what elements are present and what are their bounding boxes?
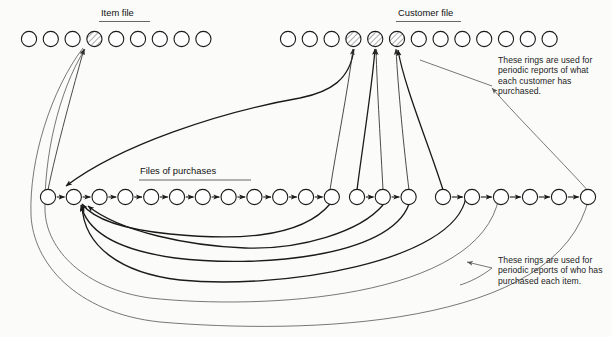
label-files-of-purchases: Files of purchases [140,165,216,176]
connector-c5 [398,50,443,190]
leader-item-note [460,268,492,285]
ring [196,31,211,46]
connector-c2 [357,49,375,190]
ring [65,31,80,46]
ring [498,31,513,46]
arc-purchase-return-1 [82,197,466,282]
annotation-customer-rings: These rings are used for periodic report… [498,55,606,97]
ring [477,31,492,46]
ring [324,31,339,46]
ring [195,189,210,204]
label-item-file: Item file [101,7,134,18]
ring-row-files-of-purchases-group-1 [40,189,339,204]
ring [40,189,55,204]
ring [152,31,167,46]
connectors-chain-to-item-file [48,49,84,190]
label-customer-file: Customer file [398,7,453,18]
arc-purchase-return-2 [81,204,409,261]
leader-customer-note-tail [420,60,492,86]
ring-hatched [87,31,102,46]
leader-item-note-arrow [467,262,492,268]
ring [433,31,448,46]
ring [349,189,364,204]
ring [273,189,288,204]
ring [493,189,508,204]
arc-purchase-return-3 [82,204,330,237]
leader-customer-note [492,88,589,192]
ring [324,189,339,204]
ring-hatched [389,31,404,46]
arc-item-return-mid [45,49,499,302]
ring [247,189,262,204]
ring [435,189,450,204]
ring [522,189,537,204]
ring [221,189,236,204]
ring [302,31,317,46]
ring-row-item-file [21,31,211,46]
ring [375,189,390,204]
ring-row-customer-file [280,31,557,46]
diagram-canvas: Item file Customer file Files of purchas… [0,0,611,337]
ring [298,189,313,204]
ring-row-files-of-purchases-group-3 [435,189,595,204]
ring [66,189,81,204]
ring-row-files-of-purchases-group-2 [349,189,416,204]
arc-purchase-return-4 [88,205,383,248]
ring [144,189,159,204]
connector-c1 [330,49,353,190]
connector-i1 [48,49,84,190]
ring [401,189,416,204]
ring [169,189,184,204]
ring-structure-diagram [0,0,611,337]
return-arcs-to-purchase-chain [81,197,466,282]
ring [464,189,479,204]
ring [21,31,36,46]
ring [92,189,107,204]
ring [580,189,595,204]
ring [455,31,470,46]
ring [109,31,124,46]
ring [520,31,535,46]
ring [280,31,295,46]
ring [130,31,145,46]
ring-hatched [368,31,383,46]
ring [551,189,566,204]
ring [411,31,426,46]
ring [542,31,557,46]
connector-c3 [376,49,383,190]
ring [118,189,133,204]
ring [43,31,58,46]
ring-hatched [346,31,361,46]
ring [174,31,189,46]
annotation-item-rings: These rings are used for periodic report… [498,255,608,286]
